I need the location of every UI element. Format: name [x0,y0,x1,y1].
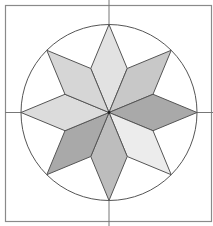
center-point [108,111,111,114]
star-diagram [0,0,213,226]
